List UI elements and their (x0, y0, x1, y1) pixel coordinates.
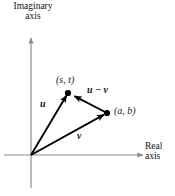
diagram-canvas (0, 0, 175, 196)
imaginary-axis-label-line2: axis (3, 12, 63, 22)
point-ab-dot (104, 110, 110, 116)
vector-v-label: v (77, 131, 81, 142)
imaginary-axis-label: Imaginary axis (3, 2, 63, 22)
vector-u-minus-v-label: u − v (87, 85, 108, 96)
point-st-label: (s, t) (56, 75, 74, 86)
point-st-dot (65, 90, 71, 96)
vector-u-minus-v-arrow (75, 96, 108, 113)
real-axis-label: Real axis (145, 142, 175, 162)
point-ab-label: (a, b) (114, 106, 136, 117)
complex-plane-vector-diagram: Imaginary axis Real axis (s, t) (a, b) u… (0, 0, 175, 196)
vector-u-label: u (40, 99, 46, 110)
real-axis-label-line2: axis (145, 152, 175, 162)
